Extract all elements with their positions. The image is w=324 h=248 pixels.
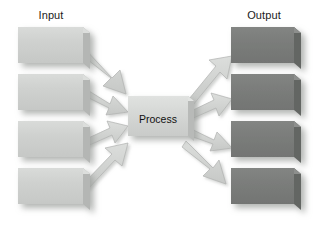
input-box-3 <box>18 121 90 163</box>
output-box-4 <box>231 168 301 210</box>
input-arrows-group <box>83 48 128 189</box>
output-box-3 <box>231 121 301 163</box>
output-stack <box>231 27 301 210</box>
process-label: Process <box>128 113 188 125</box>
diagram-canvas: Input Output Process <box>0 0 324 248</box>
output-label: Output <box>213 9 315 21</box>
input-box-1 <box>18 27 90 69</box>
input-box-4 <box>18 168 90 210</box>
input-stack <box>18 27 90 210</box>
input-label: Input <box>0 9 102 21</box>
output-box-1 <box>231 27 301 69</box>
input-box-2 <box>18 74 90 116</box>
input-arrow-3 <box>84 121 128 147</box>
output-arrow-3 <box>188 128 232 151</box>
input-arrow-4 <box>84 143 128 189</box>
output-box-2 <box>231 74 301 116</box>
